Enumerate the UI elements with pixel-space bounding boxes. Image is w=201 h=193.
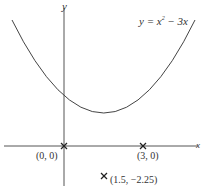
cross-marker-vertex [101, 173, 107, 179]
plot-area [0, 0, 201, 193]
origin-label: (0, 0) [36, 150, 58, 161]
parabola-curve [12, 20, 195, 113]
vertex-label: (1.5, −2.25) [110, 174, 157, 185]
equation-text: y = x [139, 15, 162, 27]
graph: y x y = x2 − 3x (0, 0) (3, 0) (1.5, −2.2… [0, 0, 201, 193]
root-label: (3, 0) [137, 150, 159, 161]
y-axis-label: y [62, 0, 67, 12]
equation-tail: − 3x [165, 15, 188, 27]
equation-label: y = x2 − 3x [139, 15, 188, 27]
x-axis-label: x [196, 140, 200, 150]
